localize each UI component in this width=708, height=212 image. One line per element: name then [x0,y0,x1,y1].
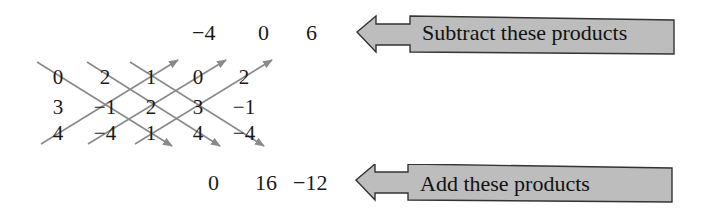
matrix-cell: 1 [133,67,169,88]
matrix-cell: 2 [87,67,123,88]
matrix-cell: 2 [133,97,169,118]
top-product-3: 6 [306,22,317,44]
matrix-cell: −4 [226,123,262,144]
add-callout-label: Add these products [420,173,590,195]
matrix-cell: 1 [133,123,169,144]
subtract-callout-label: Subtract these products [422,22,627,44]
matrix-cell: −4 [87,123,123,144]
matrix-cell: 0 [180,67,216,88]
bottom-product-1: 0 [208,172,219,194]
bottom-product-2: 16 [255,172,277,194]
matrix-cell: −1 [226,97,262,118]
matrix-cell: 3 [180,97,216,118]
matrix-cell: 4 [180,123,216,144]
matrix-cell: 0 [40,67,76,88]
bottom-product-3: −12 [293,172,327,194]
top-product-1: −4 [192,22,215,44]
matrix-cell: 4 [40,123,76,144]
matrix-cell: 3 [40,97,76,118]
matrix-cell: −1 [87,97,123,118]
matrix-cell: 2 [226,67,262,88]
top-product-2: 0 [258,22,269,44]
